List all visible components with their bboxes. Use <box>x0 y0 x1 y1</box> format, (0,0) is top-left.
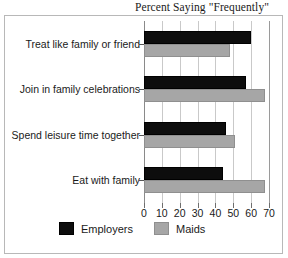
gridline-60 <box>251 21 252 203</box>
x-tick-label-40: 40 <box>210 207 222 219</box>
legend-swatch-maids <box>154 222 169 235</box>
x-tick-label-50: 50 <box>227 207 239 219</box>
legend-label-maids: Maids <box>176 223 205 235</box>
legend-item-employers: Employers <box>59 222 133 235</box>
bar-employers-2 <box>144 122 226 135</box>
bar-employers-0 <box>144 31 251 44</box>
bar-maids-3 <box>144 180 265 193</box>
bar-employers-1 <box>144 76 246 89</box>
chart-legend: EmployersMaids <box>4 222 283 244</box>
x-tick-label-60: 60 <box>245 207 257 219</box>
gridline-70 <box>269 21 270 203</box>
x-tick-label-20: 20 <box>174 207 186 219</box>
legend-item-maids: Maids <box>154 222 205 235</box>
category-label-0: Treat like family or friend <box>0 38 140 50</box>
x-tick-label-70: 70 <box>263 207 275 219</box>
bar-maids-0 <box>144 44 230 57</box>
legend-swatch-employers <box>59 222 74 235</box>
gridline-50 <box>233 21 234 203</box>
x-tick-label-10: 10 <box>156 207 168 219</box>
bar-employers-3 <box>144 167 223 180</box>
category-label-3: Eat with family <box>0 174 140 186</box>
x-tick-label-30: 30 <box>192 207 204 219</box>
chart-figure: Percent Saying "Frequently" Treat like f… <box>0 0 288 258</box>
x-tick-label-0: 0 <box>141 207 147 219</box>
category-label-1: Join in family celebrations <box>0 83 140 95</box>
plot-area <box>144 21 269 203</box>
x-axis-tick-labels: 010203040506070 <box>144 207 269 221</box>
bar-maids-1 <box>144 89 265 102</box>
bar-maids-2 <box>144 135 235 148</box>
chart-title: Percent Saying "Frequently" <box>118 1 286 13</box>
category-label-2: Spend leisure time together <box>0 129 140 141</box>
legend-label-employers: Employers <box>81 223 133 235</box>
